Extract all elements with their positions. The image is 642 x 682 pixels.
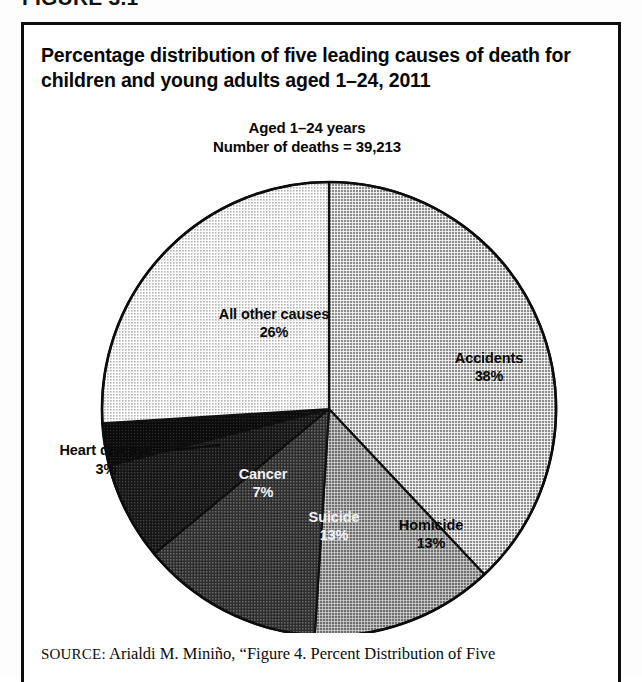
figure-title: Percentage distribution of five leading …: [41, 43, 607, 93]
pie-label-heart-disease-name: Heart disease: [59, 442, 152, 458]
source-citation: Arialdi M. Miniño, “Figure 4. Percent Di…: [109, 644, 495, 663]
pie-label-all-other-causes-percent: 26%: [184, 323, 364, 341]
pie-label-suicide-name: Suicide: [309, 509, 360, 525]
pie-label-accidents-percent: 38%: [414, 367, 564, 385]
pie-label-all-other-causes: All other causes 26%: [184, 305, 364, 341]
figure-number-label: FIGURE 3.1: [22, 0, 138, 12]
pie-label-cancer: Cancer 7%: [208, 465, 318, 501]
figure-subtitle: Aged 1–24 years Number of deaths = 39,21…: [24, 119, 590, 156]
source-note: SOURCE: Arialdi M. Miniño, “Figure 4. Pe…: [41, 644, 607, 664]
pie-slice-all-other-causes: [102, 182, 329, 423]
pie-chart: Accidents 38% All other causes 26% Homic…: [24, 153, 618, 633]
subtitle-age-range: Aged 1–24 years: [24, 119, 590, 138]
pie-label-all-other-causes-name: All other causes: [219, 306, 329, 322]
pie-label-suicide: Suicide 13%: [274, 508, 394, 544]
pie-label-cancer-percent: 7%: [208, 483, 318, 501]
pie-label-heart-disease-percent: 3%: [36, 460, 176, 479]
pie-label-cancer-name: Cancer: [239, 466, 288, 482]
pie-label-homicide-name: Homicide: [399, 517, 463, 533]
pie-label-accidents: Accidents 38%: [414, 349, 564, 385]
pie-chart-svg: [24, 153, 618, 633]
source-label: SOURCE:: [41, 646, 106, 662]
pie-label-suicide-percent: 13%: [274, 526, 394, 544]
figure-box: Percentage distribution of five leading …: [21, 22, 621, 682]
pie-label-accidents-name: Accidents: [455, 350, 523, 366]
pie-label-heart-disease: Heart disease 3%: [36, 441, 176, 479]
